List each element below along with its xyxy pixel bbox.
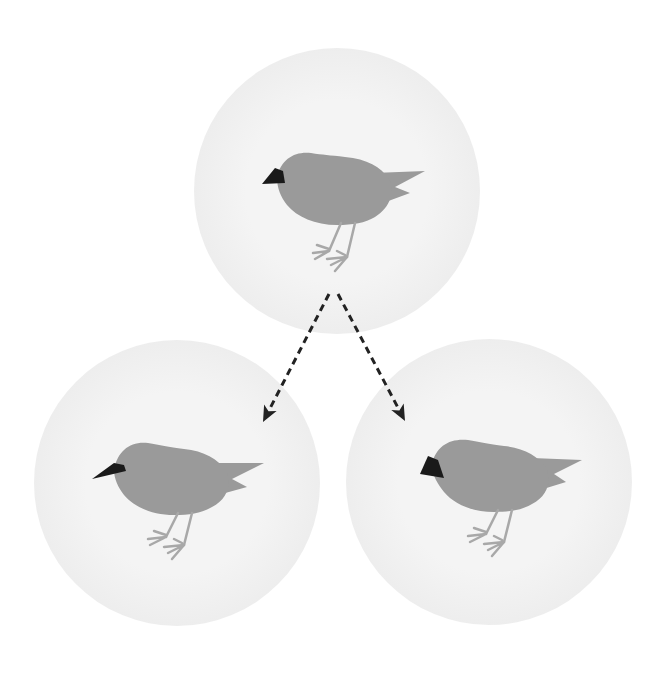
- evolution-diagram: [0, 0, 667, 673]
- descendant-left-bird-icon: [90, 435, 270, 565]
- descendant-right-bird-icon: [410, 430, 590, 560]
- ancestor-bird-icon: [255, 145, 435, 275]
